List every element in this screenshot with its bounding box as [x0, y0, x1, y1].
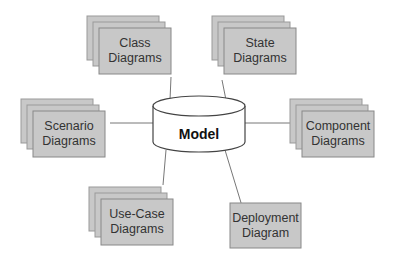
- node-label: Class: [119, 36, 150, 50]
- node-use-case-diagrams: Use-Case Diagrams: [89, 187, 173, 245]
- node-label: Deployment: [232, 211, 299, 225]
- node-label: Use-Case: [109, 207, 165, 221]
- model-cylinder: Model: [153, 96, 245, 152]
- model-label: Model: [179, 126, 219, 142]
- node-label: Scenario: [44, 119, 93, 133]
- node-label: Diagram: [242, 226, 289, 240]
- diagram-canvas: Class Diagrams State Diagrams Scenario D…: [0, 0, 393, 258]
- node-component-diagrams: Component Diagrams: [290, 99, 374, 157]
- node-label: Component: [306, 119, 371, 133]
- node-label: Diagrams: [110, 222, 164, 236]
- node-label: Diagrams: [311, 134, 365, 148]
- node-scenario-diagrams: Scenario Diagrams: [21, 99, 105, 157]
- node-state-diagrams: State Diagrams: [212, 16, 296, 74]
- connector-deployment: [225, 150, 242, 206]
- node-label: Diagrams: [42, 134, 96, 148]
- node-label: State: [245, 36, 274, 50]
- connector-usecase: [163, 150, 166, 185]
- node-label: Diagrams: [233, 51, 287, 65]
- node-deployment-diagram: Deployment Diagram: [230, 203, 301, 248]
- node-class-diagrams: Class Diagrams: [87, 16, 171, 74]
- connector-class: [170, 77, 171, 100]
- node-label: Diagrams: [108, 51, 162, 65]
